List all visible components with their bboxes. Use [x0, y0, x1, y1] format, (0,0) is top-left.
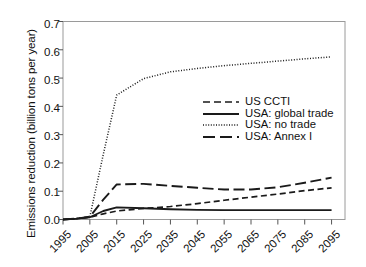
legend-item-usa-global-trade: USA: global trade [203, 108, 343, 119]
x-tick-label-8: 2075 [254, 228, 288, 262]
legend-label-usa-no-trade: USA: no trade [245, 118, 316, 130]
x-tick-label-7: 2065 [228, 228, 262, 262]
legend-label-usa-global-trade: USA: global trade [245, 107, 334, 119]
x-tick-label-1: 2005 [66, 228, 100, 262]
legend-swatch-usa-no-trade [203, 124, 239, 126]
x-tick-label-0: 1995 [40, 228, 74, 262]
legend-label-usa-annex-i: USA: Annex I [245, 130, 312, 142]
legend-label-us-ccti: US CCTI [245, 95, 290, 107]
legend-swatch-usa-global-trade [203, 113, 239, 115]
x-tick-label-9: 2085 [281, 228, 315, 262]
legend-item-usa-annex-i: USA: Annex I [203, 131, 343, 142]
x-tick-label-2: 2015 [93, 228, 127, 262]
chart-legend: US CCTI USA: global trade USA: no trade … [203, 96, 343, 143]
x-tick-label-10: 2095 [308, 228, 342, 262]
legend-item-usa-no-trade: USA: no trade [203, 119, 343, 130]
legend-swatch-us-ccti [203, 101, 239, 103]
chart-figure: Emissions reduction (billion tons per ye… [0, 0, 366, 267]
legend-item-us-ccti: US CCTI [203, 96, 343, 107]
legend-swatch-usa-annex-i [203, 136, 239, 138]
